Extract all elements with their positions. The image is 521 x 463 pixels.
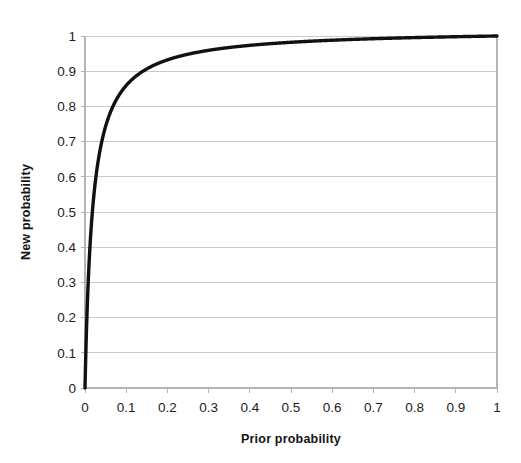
y-axis-title: New probability bbox=[19, 164, 33, 260]
y-tick-label: 0.3 bbox=[57, 275, 76, 290]
x-tick-label: 0.1 bbox=[117, 400, 136, 415]
x-tick-label: 0.4 bbox=[240, 400, 259, 415]
x-tick-label: 1 bbox=[493, 400, 501, 415]
x-tick-label: 0.6 bbox=[323, 400, 342, 415]
y-tick-label: 0.4 bbox=[57, 240, 76, 255]
y-tick-label: 0.6 bbox=[57, 170, 76, 185]
y-tick-label: 0.9 bbox=[57, 64, 76, 79]
y-tick-label: 0.1 bbox=[57, 346, 76, 361]
x-axis-title: Prior probability bbox=[241, 432, 341, 446]
y-tick-label: 0.2 bbox=[57, 310, 76, 325]
x-tick-label: 0.7 bbox=[364, 400, 383, 415]
line-chart: 00.10.20.30.40.50.60.70.80.91 00.10.20.3… bbox=[0, 0, 521, 463]
chart-figure: 00.10.20.30.40.50.60.70.80.91 00.10.20.3… bbox=[0, 0, 521, 463]
x-tick-label: 0.9 bbox=[446, 400, 465, 415]
y-tick-label: 1 bbox=[68, 29, 76, 44]
y-tick-label: 0.5 bbox=[57, 205, 76, 220]
chart-background bbox=[0, 0, 521, 463]
x-tick-label: 0 bbox=[81, 400, 89, 415]
x-tick-label: 0.2 bbox=[158, 400, 177, 415]
x-tick-label: 0.5 bbox=[282, 400, 301, 415]
y-tick-label: 0.7 bbox=[57, 134, 76, 149]
x-tick-label: 0.3 bbox=[199, 400, 218, 415]
x-tick-label: 0.8 bbox=[405, 400, 424, 415]
y-tick-label: 0 bbox=[68, 381, 76, 396]
y-tick-label: 0.8 bbox=[57, 99, 76, 114]
